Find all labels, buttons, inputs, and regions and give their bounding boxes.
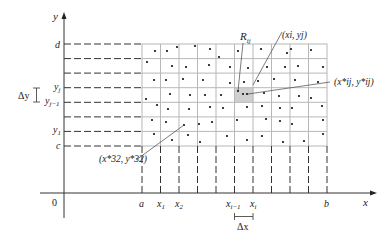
y-tick-c: c [56,140,61,151]
delta-y-label: Δy [18,90,29,101]
y-axis-label: y [52,10,58,22]
sample-ij-label: (x*ij, y*ij) [334,77,374,88]
x-tick-xi-1: xi−1 [225,198,241,211]
y-tick-y1: y1 [52,124,61,137]
delta-y-bracket [33,88,40,102]
x-tick-x1: x1 [156,198,165,211]
y-axis-arrow-icon [62,12,67,19]
partition-diagram: y x 0 d yj yj−1 y1 c Δy a x1 x2 xi−1 xi … [0,0,383,236]
y-tick-d: d [55,39,61,50]
y-tick-yj: yj [53,81,60,94]
x-tick-a: a [139,198,144,209]
x-tick-xi: xi [249,198,256,211]
xi-yj-label: (xi, yj) [282,30,307,41]
delta-x-label: Δx [237,221,248,232]
delta-x-bracket [235,213,254,220]
x-tick-b: b [324,198,329,209]
x-axis-label: x [362,196,368,208]
leader-lines [136,32,330,160]
x-tick-x2: x2 [174,198,183,211]
vertical-dashed-guides [142,146,327,193]
x-axis-arrow-icon [370,191,377,196]
rij-label: Rij [239,30,251,45]
sample-32-label: (x*32, y*32) [99,154,147,165]
figure: y x 0 d yj yj−1 y1 c Δy a x1 x2 xi−1 xi … [0,0,383,236]
horizontal-dashed-guides [64,44,142,146]
origin-label: 0 [52,197,57,208]
y-tick-yj-1: yj−1 [44,95,60,108]
